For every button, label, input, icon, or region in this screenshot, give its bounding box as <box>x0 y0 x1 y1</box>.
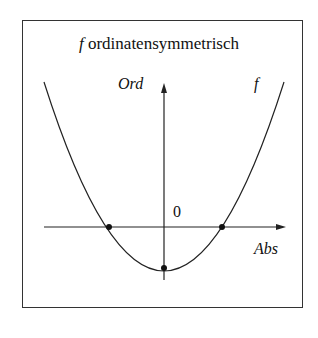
root-point-right <box>219 224 225 230</box>
x-axis-label: Abs <box>254 240 278 258</box>
vertex-point <box>161 265 167 271</box>
root-point-left <box>106 224 112 230</box>
origin-label: 0 <box>173 203 181 221</box>
y-axis-arrow-icon <box>161 83 167 93</box>
function-label: f <box>254 75 258 93</box>
y-axis-label: Ord <box>118 75 143 93</box>
x-axis-arrow-icon <box>276 224 286 230</box>
plot-area <box>0 0 318 338</box>
